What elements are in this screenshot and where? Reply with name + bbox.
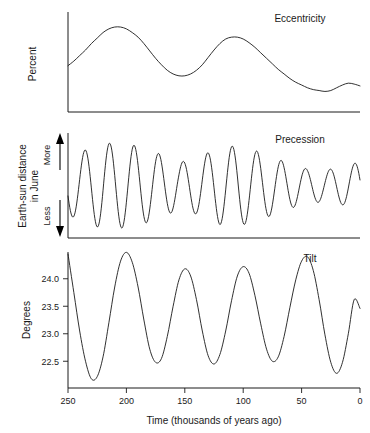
precession-curve [68, 143, 360, 228]
tilt-axes [68, 252, 360, 388]
tilt-x-axis-label: Time (thousands of years ago) [146, 415, 281, 426]
precession-panel-title: Precession [275, 134, 324, 145]
tilt-x-tick-label: 250 [60, 396, 75, 406]
tilt-y-tick-group: 22.523.023.524.0 [41, 274, 68, 367]
tilt-y-tick-label: 23.5 [41, 302, 59, 312]
precession-y-axis-label-line2: in June [29, 169, 40, 202]
tilt-panel-title: Tilt [304, 253, 317, 264]
milankovitch-cycles-figure: Percent Eccentricity Earth-sun distance … [0, 0, 370, 433]
panel-tilt: 22.523.023.524.0 250200150100500 Degrees… [21, 252, 363, 426]
tilt-x-tick-group: 250200150100500 [60, 388, 362, 406]
eccentricity-curve [68, 27, 360, 92]
more-arrow-icon [56, 133, 64, 170]
tilt-y-tick-label: 23.0 [41, 329, 59, 339]
tilt-x-tick-label: 200 [119, 396, 134, 406]
panel-eccentricity: Percent Eccentricity [27, 12, 360, 112]
precession-more-label: More [42, 145, 52, 166]
precession-less-label: Less [42, 206, 52, 226]
tilt-x-tick-label: 100 [236, 396, 251, 406]
eccentricity-panel-title: Eccentricity [274, 13, 325, 24]
precession-y-axis-label-line1: Earth-sun distance [17, 144, 28, 228]
tilt-x-tick-label: 0 [357, 396, 362, 406]
tilt-x-tick-label: 50 [297, 396, 307, 406]
panel-precession: Earth-sun distance in June More Less Pre… [17, 133, 360, 238]
tilt-y-tick-label: 24.0 [41, 274, 59, 284]
tilt-x-tick-label: 150 [177, 396, 192, 406]
eccentricity-axes [68, 12, 360, 112]
tilt-curve [68, 252, 360, 380]
tilt-y-axis-label: Degrees [21, 301, 32, 339]
tilt-y-tick-label: 22.5 [41, 357, 59, 367]
eccentricity-y-axis-label: Percent [27, 47, 38, 82]
less-arrow-icon [56, 200, 64, 237]
